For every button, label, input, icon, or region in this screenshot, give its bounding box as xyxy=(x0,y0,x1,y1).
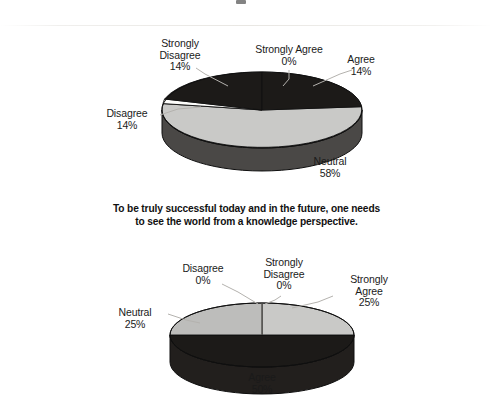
label-percent: 14% xyxy=(96,120,158,132)
label-strongly-agree-bottom: Strongly Agree 25% xyxy=(336,274,402,309)
pie-bottom-face xyxy=(170,303,354,367)
caption-line-1: To be truly successful today and in the … xyxy=(113,203,380,214)
pie-top-face xyxy=(162,72,362,148)
label-text-line1: Strongly xyxy=(144,38,216,50)
label-percent: 14% xyxy=(333,66,389,78)
label-percent: 0% xyxy=(241,56,337,68)
label-strongly-agree-top: Strongly Agree 0% xyxy=(241,44,337,67)
label-disagree-top: Disagree 14% xyxy=(96,108,158,131)
label-text-line1: Strongly xyxy=(336,274,402,286)
pie-top-svg xyxy=(0,0,493,195)
caption-line-2: to see the world from a knowledge perspe… xyxy=(0,216,493,229)
label-percent: 25% xyxy=(336,297,402,309)
label-strongly-disagree-top: Strongly Disagree 14% xyxy=(144,38,216,73)
label-disagree-bottom: Disagree 0% xyxy=(172,263,234,286)
pie-chart-bottom: Disagree 0% Strongly Disagree 0% Strongl… xyxy=(0,250,493,406)
label-text-line1: Neutral xyxy=(104,307,166,319)
label-strongly-disagree-bottom: Strongly Disagree 0% xyxy=(249,257,319,292)
leader-strongly-agree xyxy=(292,296,333,308)
label-text-line1: Disagree xyxy=(172,263,234,275)
label-neutral-bottom: Neutral 25% xyxy=(104,307,166,330)
label-neutral-top: Neutral 58% xyxy=(300,156,360,179)
page-canvas: Strongly Disagree 14% Strongly Agree 0% … xyxy=(0,0,493,406)
label-text-line1: Agree xyxy=(333,54,389,66)
label-text-line1: Agree xyxy=(232,372,292,384)
label-text-line1: Strongly xyxy=(249,257,319,269)
label-percent: 25% xyxy=(104,319,166,331)
label-percent: 14% xyxy=(144,61,216,73)
label-text-line1: Neutral xyxy=(300,156,360,168)
label-text-line1: Strongly Agree xyxy=(241,44,337,56)
label-text-line1: Disagree xyxy=(96,108,158,120)
pie-chart-top: Strongly Disagree 14% Strongly Agree 0% … xyxy=(0,0,493,195)
label-percent: 0% xyxy=(172,275,234,287)
chart-caption: To be truly successful today and in the … xyxy=(0,203,493,228)
label-percent: 50% xyxy=(232,384,292,396)
label-agree-bottom: Agree 50% xyxy=(232,372,292,395)
label-agree-top: Agree 14% xyxy=(333,54,389,77)
label-percent: 0% xyxy=(249,280,319,292)
label-percent: 58% xyxy=(300,168,360,180)
